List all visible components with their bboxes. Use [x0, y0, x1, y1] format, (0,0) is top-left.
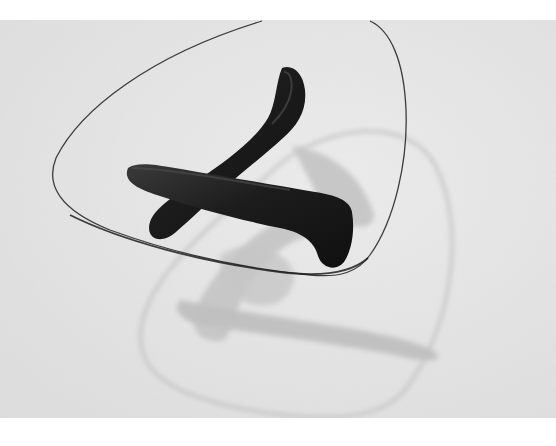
- coffee-table-illustration: [0, 20, 556, 418]
- image-frame: [0, 0, 556, 446]
- photograph: [0, 20, 556, 418]
